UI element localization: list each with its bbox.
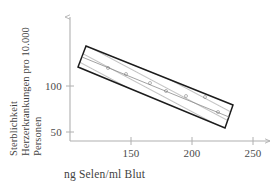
chart-figure: 100 50 150 200 250 ng Selen/ml Blut Ster… <box>0 0 280 196</box>
x-tick-label-200: 200 <box>172 147 212 159</box>
y-axis-title-line-1: Sterblichkeit <box>8 101 19 156</box>
band-center-line <box>82 57 229 117</box>
correlation-band <box>78 46 233 128</box>
y-axis-title-line-2: Herzerkrankungen pro 10.000 <box>20 27 31 156</box>
x-axis-title: ng Selen/ml Blut <box>64 168 145 180</box>
y-axis-title: Sterblichkeit Herzerkrankungen pro 10.00… <box>8 6 56 156</box>
x-tick-label-250: 250 <box>233 147 273 159</box>
y-axis-title-line-3: Personen <box>32 117 43 156</box>
x-tick-label-150: 150 <box>111 147 151 159</box>
